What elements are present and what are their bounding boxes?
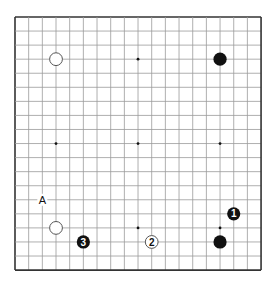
star-point <box>219 227 222 230</box>
star-point <box>137 142 140 145</box>
move-number-label: 2 <box>149 237 155 248</box>
star-point <box>219 142 222 145</box>
white-stone <box>50 53 63 66</box>
black-stone: 3 <box>77 235 90 248</box>
move-number-label: 1 <box>231 208 237 219</box>
white-stone <box>50 222 63 235</box>
white-stone: 2 <box>145 236 158 249</box>
stones-layer: 123 <box>50 53 241 249</box>
star-point <box>137 58 140 61</box>
star-point <box>137 227 140 230</box>
move-number-label: 3 <box>81 237 87 248</box>
go-board: 123 A <box>0 0 274 289</box>
point-marker: A <box>37 194 47 206</box>
black-stone <box>213 235 226 248</box>
black-stone: 1 <box>227 207 240 220</box>
black-stone <box>213 53 226 66</box>
markers-layer: A <box>37 194 47 206</box>
star-point <box>55 142 58 145</box>
marker-label: A <box>39 194 47 206</box>
